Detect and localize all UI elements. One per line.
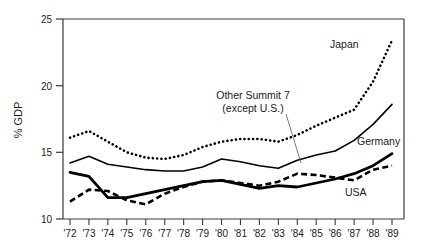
annotation-other-summit-7-line2: (except U.S.)	[222, 102, 283, 114]
series-label-germany: Germany	[357, 135, 401, 147]
x-tick-label-78: '78	[177, 228, 190, 239]
y-axis-tick-labels: 10 15 20 25	[41, 14, 53, 225]
x-axis-ticks	[70, 219, 392, 225]
y-tick-label-25: 25	[41, 14, 53, 25]
x-tick-label-76: '76	[139, 228, 152, 239]
x-tick-label-83: '83	[272, 228, 285, 239]
x-tick-label-74: '74	[101, 228, 114, 239]
series-label-usa: USA	[345, 186, 367, 198]
y-tick-label-15: 15	[41, 147, 53, 158]
x-tick-label-81: '81	[234, 228, 247, 239]
annotation-other-summit-7-line1: Other Summit 7	[216, 89, 290, 101]
series-label-japan: Japan	[330, 38, 359, 50]
x-tick-label-73: '73	[82, 228, 95, 239]
x-tick-label-82: '82	[253, 228, 266, 239]
y-axis-ticks	[56, 19, 63, 219]
line-chart: 10 15 20 25 % GDP '72'73'74'75'76'77'78'…	[0, 0, 421, 249]
x-tick-label-85: '85	[310, 228, 323, 239]
x-tick-label-84: '84	[291, 228, 304, 239]
x-tick-label-88: '88	[367, 228, 380, 239]
x-tick-label-77: '77	[158, 228, 171, 239]
x-tick-label-75: '75	[120, 228, 133, 239]
x-tick-label-89: '89	[385, 228, 398, 239]
data-series-group	[70, 40, 392, 204]
x-tick-label-87: '87	[348, 228, 361, 239]
y-axis-title: % GDP	[12, 102, 24, 139]
x-tick-label-79: '79	[196, 228, 209, 239]
series-line-other-summit-7-except-u-s	[70, 104, 392, 171]
x-tick-label-72: '72	[63, 228, 76, 239]
y-tick-label-20: 20	[41, 81, 53, 92]
x-tick-label-86: '86	[329, 228, 342, 239]
y-tick-label-10: 10	[41, 214, 53, 225]
x-tick-label-80: '80	[215, 228, 228, 239]
annotation-leader-line	[286, 114, 301, 163]
x-axis-tick-labels: '72'73'74'75'76'77'78'79'80'81'82'83'84'…	[63, 228, 398, 239]
chart-figure: 10 15 20 25 % GDP '72'73'74'75'76'77'78'…	[0, 0, 421, 249]
